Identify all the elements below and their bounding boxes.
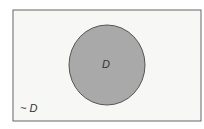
set-d-label: D <box>102 58 110 70</box>
complement-label: ~ D <box>20 102 37 114</box>
